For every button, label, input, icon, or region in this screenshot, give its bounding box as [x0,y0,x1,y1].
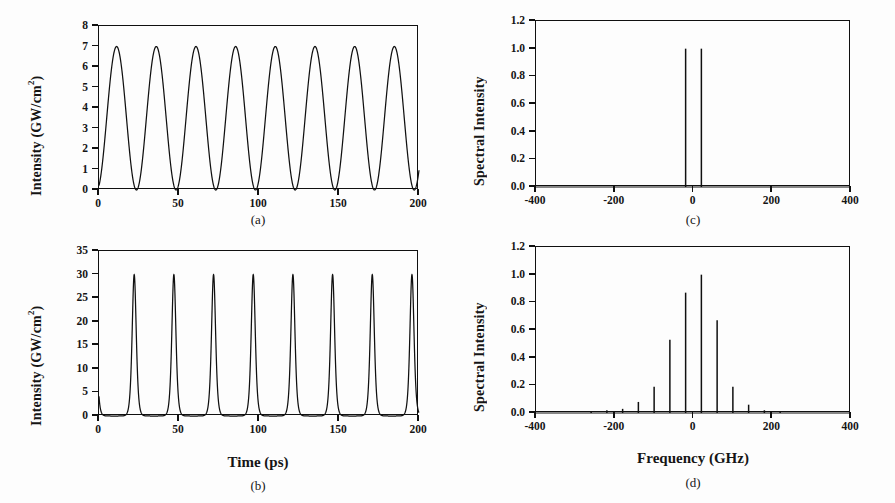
x-tick-label: 200 [409,197,426,209]
axis-tick [692,412,694,418]
axis-tick [613,412,615,418]
panel-c-plot-area [535,20,850,186]
axis-tick [529,356,535,358]
y-tick-label: 0.6 [483,323,525,335]
panel-a-plot-area [98,25,418,189]
axis-tick [92,296,98,298]
x-tick-label: 400 [841,194,858,206]
axis-tick [257,415,259,421]
panel-b-waveform-path [99,275,419,416]
y-tick-label: 25 [46,291,88,303]
panel-b: Intensity (GW/cm2) 05101520253035 050100… [0,232,448,503]
y-tick-label: 30 [46,268,88,280]
axis-tick [529,245,535,247]
panel-b-xlabel: Time (ps) [198,454,318,471]
x-tick-label: 200 [763,194,780,206]
x-tick-label: -400 [524,194,545,206]
panel-b-curve [99,251,419,416]
axis-tick [92,147,98,149]
axis-tick [849,186,851,192]
axis-tick [97,415,99,421]
axis-tick [92,65,98,67]
y-tick-label: 8 [46,19,88,31]
panel-a: Intensity (GW/cm2) 012345678 05010015020… [0,0,448,232]
y-tick-label: 0.4 [483,125,525,137]
figure-canvas: Intensity (GW/cm2) 012345678 05010015020… [0,0,895,503]
y-tick-label: 0.0 [483,180,525,192]
x-tick-label: 0 [690,194,696,206]
axis-tick [177,189,179,195]
x-tick-label: 200 [763,420,780,432]
x-tick-label: 150 [329,423,346,435]
panel-a-curve [99,26,419,190]
axis-tick [529,384,535,386]
axis-tick [92,367,98,369]
axis-tick [92,45,98,47]
panel-d: Spectral Intensity 0.00.20.40.60.81.01.2… [448,232,895,503]
axis-tick [529,328,535,330]
y-tick-label: 6 [46,60,88,72]
axis-tick [92,249,98,251]
y-tick-label: 1.0 [483,268,525,280]
axis-tick [92,320,98,322]
y-tick-label: 0.0 [483,406,525,418]
y-tick-label: 0.6 [483,97,525,109]
axis-tick [770,412,772,418]
axis-tick [337,415,339,421]
x-tick-label: -200 [603,420,624,432]
axis-tick [529,19,535,21]
axis-tick [534,186,536,192]
axis-tick [92,168,98,170]
y-tick-label: 1.2 [483,14,525,26]
axis-tick [92,106,98,108]
y-tick-label: 10 [46,362,88,374]
panel-d-xlabel: Frequency (GHz) [623,450,763,467]
axis-tick [92,127,98,129]
y-tick-label: 4 [46,101,88,113]
panel-a-ylabel: Intensity (GW/cm2) [26,14,45,196]
axis-tick [849,412,851,418]
x-tick-label: 150 [329,197,346,209]
y-tick-label: 1 [46,163,88,175]
panel-d-lines [536,247,851,413]
axis-tick [92,343,98,345]
axis-tick [257,189,259,195]
y-tick-label: 0 [46,183,88,195]
x-tick-label: 400 [841,420,858,432]
y-tick-label: 3 [46,122,88,134]
panel-c: Spectral Intensity 0.00.20.40.60.81.01.2… [448,0,895,232]
x-tick-label: -200 [603,194,624,206]
axis-tick [529,273,535,275]
x-tick-label: 0 [690,420,696,432]
axis-tick [613,186,615,192]
panel-c-lines [536,21,851,187]
y-tick-label: 1.2 [483,240,525,252]
axis-tick [529,47,535,49]
x-tick-label: -400 [524,420,545,432]
y-tick-label: 5 [46,81,88,93]
x-tick-label: 100 [249,197,266,209]
y-tick-label: 20 [46,315,88,327]
x-tick-label: 50 [172,197,184,209]
axis-tick [92,24,98,26]
x-tick-label: 200 [409,423,426,435]
panel-b-plot-area [98,250,418,415]
axis-tick [529,301,535,303]
panel-b-tag: (b) [198,478,318,494]
x-tick-label: 50 [172,423,184,435]
axis-tick [92,86,98,88]
y-tick-label: 1.0 [483,42,525,54]
axis-tick [770,186,772,192]
axis-tick [177,415,179,421]
panel-b-ylabel: Intensity (GW/cm2) [26,244,45,426]
y-tick-label: 0 [46,409,88,421]
axis-tick [97,189,99,195]
axis-tick [534,412,536,418]
x-tick-label: 100 [249,423,266,435]
y-tick-label: 7 [46,40,88,52]
panel-d-plot-area [535,246,850,412]
axis-tick [692,186,694,192]
panel-a-tag: (a) [198,212,318,228]
y-tick-label: 0.4 [483,351,525,363]
axis-tick [529,130,535,132]
